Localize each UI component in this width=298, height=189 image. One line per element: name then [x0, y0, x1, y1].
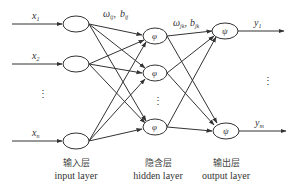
hidden-layer-caption-cn: 隐含层: [145, 157, 172, 168]
hidden-ellipsis: ⋮: [153, 95, 163, 106]
output-node-1-symbol: ψ: [222, 26, 228, 36]
output-ellipsis: ⋮: [263, 75, 273, 86]
edges-hidden-output: [167, 31, 217, 131]
hidden-node-2-symbol: φ: [152, 68, 157, 78]
hidden-layer-caption-en: hidden layer: [133, 170, 183, 181]
output-label-m: ym: [254, 117, 264, 129]
weight-label-input-hidden: ωij,bij: [103, 8, 129, 20]
layer-captions: 输入层 input layer 隐含层 hidden layer 输出层 out…: [54, 157, 250, 181]
weight-label-hidden-output: ωjk,bjk: [173, 17, 200, 29]
input-node-1: [63, 16, 89, 32]
input-arrows: [12, 24, 62, 141]
input-layer-caption-cn: 输入层: [63, 157, 90, 168]
input-ellipsis: ⋮: [38, 88, 48, 99]
input-node-n: [63, 133, 89, 149]
hidden-layer-nodes: φ φ ⋮ φ: [143, 28, 167, 135]
input-node-2: [63, 56, 89, 72]
hidden-node-3-symbol: φ: [152, 122, 157, 132]
output-arrows: [238, 31, 286, 131]
output-layer-caption-en: output layer: [202, 170, 251, 181]
input-layer-nodes: [63, 16, 89, 149]
input-label-2: x2: [31, 50, 39, 62]
edges-input-hidden: [89, 24, 146, 141]
output-node-m-symbol: ψ: [223, 126, 229, 136]
output-label-1: y1: [253, 17, 261, 29]
output-layer-caption-cn: 输出层: [213, 157, 240, 168]
input-layer-caption-en: input layer: [54, 170, 98, 181]
input-label-n: xn: [31, 127, 39, 139]
neural-network-diagram: x1 x2 xn ⋮ φ φ ⋮ φ: [0, 0, 298, 189]
hidden-node-1-symbol: φ: [152, 31, 157, 41]
input-label-1: x1: [31, 10, 39, 22]
